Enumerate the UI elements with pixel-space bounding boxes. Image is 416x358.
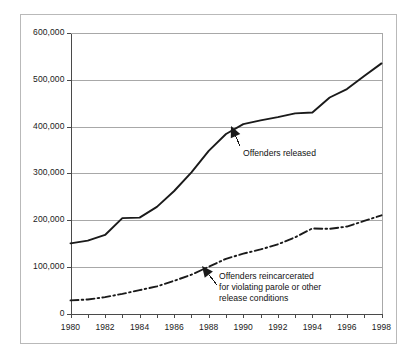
series-line-0 [71, 63, 382, 243]
y-tick-label-200000: 200,000 [22, 214, 65, 224]
y-tick-label-600000: 600,000 [22, 27, 65, 37]
offenders-released-label-leader [236, 136, 240, 146]
y-tick-label-500000: 500,000 [22, 74, 65, 84]
offenders-reincarcerated-label-line-2: release conditions [219, 293, 321, 304]
offenders-released-label-line-0: Offenders released [243, 148, 316, 159]
x-tick-label-1998: 1998 [362, 322, 402, 332]
offenders-reincarcerated-label: Offenders reincarceratedfor violating pa… [219, 271, 321, 305]
y-tick-label-400000: 400,000 [22, 121, 65, 131]
y-tick-label-0: 0 [22, 308, 65, 318]
y-tick-label-100000: 100,000 [22, 261, 65, 271]
chart-figure: 600,000500,000400,000300,000200,000100,0… [0, 0, 416, 358]
offenders-reincarcerated-label-leader [209, 275, 217, 285]
offenders-released-label: Offenders released [243, 148, 316, 159]
chart-plot-canvas [0, 0, 416, 358]
y-tick-label-300000: 300,000 [22, 167, 65, 177]
offenders-reincarcerated-label-line-0: Offenders reincarcerated [219, 271, 321, 282]
gridlines-group [71, 34, 382, 268]
data-series-group [71, 63, 382, 300]
offenders-reincarcerated-label-line-1: for violating parole or other [219, 282, 321, 293]
